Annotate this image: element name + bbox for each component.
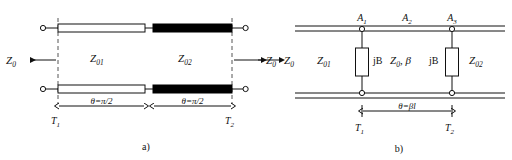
panel-a: Z0 Z0 Z01 Z02 θ=π/2 θ=π/2 T1 T2 a)	[6, 18, 276, 153]
node-t2-terminal-b	[449, 90, 454, 95]
dimension-label-2-a: θ=π/2	[181, 96, 204, 106]
port-left-label-b: Z0	[284, 54, 294, 69]
section2-impedance-label-a: Z02	[178, 52, 192, 67]
dimension-label-b: θ=βl	[398, 101, 416, 111]
right-impedance-label-b: Z02	[469, 54, 483, 69]
shunt1-label-b: jB	[372, 55, 383, 66]
dimension-label-1-a: θ=π/2	[90, 96, 113, 106]
port-left-label-a: Z0	[6, 54, 16, 69]
left-impedance-label-b: Z01	[317, 54, 331, 69]
node-t1-terminal-b	[359, 90, 364, 95]
port-right-label-a: Z0	[266, 54, 276, 69]
terminal-bottom-left-a	[40, 86, 45, 91]
terminal-top-left-a	[40, 25, 45, 30]
ref-plane-label-t1-b: T1	[355, 122, 364, 136]
line-label-b: Z0, β	[390, 54, 411, 69]
section1-top-a	[58, 24, 145, 32]
ref-plane-label-t1-a: T1	[51, 115, 60, 129]
node-label-a3-b: A3	[446, 12, 457, 26]
section1-impedance-label-a: Z01	[90, 52, 104, 67]
shunt2-label-b: jB	[428, 55, 439, 66]
node-a3-terminal-b	[449, 26, 454, 31]
panel-b: Z0 jB jB A1 A2 A3 Z01 Z0, β Z02 θ=βl T1 …	[258, 12, 505, 155]
ref-plane-label-t2-b: T2	[445, 122, 455, 136]
shunt2-element-b	[446, 48, 459, 76]
section2-bottom-a	[153, 85, 232, 93]
ref-plane-label-t2-a: T2	[225, 115, 235, 129]
terminal-bottom-right-a	[243, 86, 248, 91]
node-label-a1-b: A1	[356, 12, 367, 26]
section1-bottom-a	[58, 85, 145, 93]
section2-top-a	[153, 24, 232, 32]
node-label-a2-b: A2	[401, 12, 412, 26]
terminal-top-right-a	[243, 25, 248, 30]
panel-caption-b: b)	[395, 143, 403, 155]
node-a1-terminal-b	[359, 26, 364, 31]
figure-two-panel-transmission-line: Z0 Z0 Z01 Z02 θ=π/2 θ=π/2 T1 T2 a) Z0	[0, 0, 512, 160]
shunt1-element-b	[356, 48, 369, 76]
panel-caption-a: a)	[142, 141, 150, 153]
